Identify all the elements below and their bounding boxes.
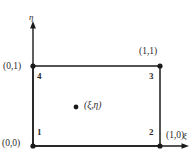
node-label-3: 3 (149, 72, 154, 81)
interior-point-label: (ξ,η) (84, 101, 101, 111)
node-marker-2 (157, 143, 162, 148)
corner-coordinate-1-0: (1,0) (166, 131, 184, 141)
node-marker-1 (30, 143, 35, 148)
natural-coordinate-element-diagram: η ξ (0,0) (1,0) (1,1) (0,1) 1 2 3 4 (ξ,η… (0, 0, 193, 157)
node-label-1: 1 (37, 128, 42, 137)
xi-axis-arrowhead (182, 143, 190, 149)
corner-coordinate-0-1: (0,1) (3, 62, 21, 72)
node-marker-3 (157, 63, 162, 68)
node-label-2: 2 (149, 128, 154, 137)
corner-coordinate-0-0: (0,0) (2, 139, 20, 149)
diagram-canvas (0, 0, 193, 157)
corner-coordinate-1-1: (1,1) (139, 47, 157, 57)
eta-axis-arrowhead (30, 21, 36, 29)
eta-axis-label: η (29, 13, 33, 22)
node-marker-4 (30, 63, 35, 68)
node-label-4: 4 (37, 72, 42, 81)
interior-point-marker (74, 105, 79, 110)
